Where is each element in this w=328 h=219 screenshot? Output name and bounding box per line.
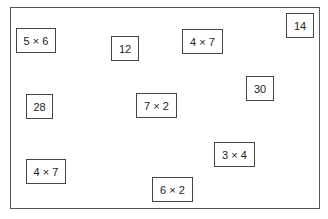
expression-card: 12: [111, 36, 139, 61]
expression-card: 7 × 2: [136, 93, 177, 118]
expression-card: 14: [286, 13, 314, 38]
expression-card: 6 × 2: [152, 177, 193, 202]
expression-card: 30: [246, 76, 274, 101]
expression-card: 4 × 7: [26, 159, 66, 184]
expression-card: 4 × 7: [182, 29, 223, 54]
expression-card: 3 × 4: [214, 142, 255, 167]
expression-card: 5 × 6: [16, 28, 56, 53]
expression-card: 28: [26, 94, 53, 119]
